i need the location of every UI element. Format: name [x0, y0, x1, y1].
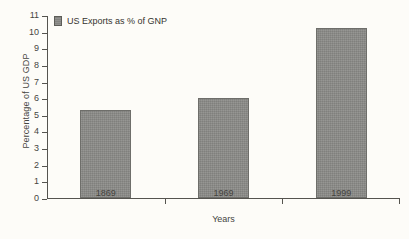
y-axis-tick: 6: [42, 99, 47, 100]
y-axis-tick-label: 8: [34, 60, 39, 70]
x-axis-tick-label: 1999: [331, 188, 351, 198]
y-axis-tick-label: 2: [34, 160, 39, 170]
y-axis-tick-label: 7: [34, 77, 39, 87]
x-axis-title: Years: [47, 214, 400, 224]
x-axis-tick: [165, 199, 166, 204]
y-axis-title: Percentage of US GDP: [21, 11, 31, 191]
legend-swatch-icon: [54, 16, 62, 26]
y-axis-tick: 9: [42, 49, 47, 50]
y-axis-tick: 3: [42, 149, 47, 150]
plot-area: 01234567891011: [47, 16, 400, 199]
bar: [316, 28, 367, 198]
y-axis-tick: 1: [42, 182, 47, 183]
y-axis-tick: 8: [42, 66, 47, 67]
bar: [80, 110, 131, 198]
y-axis-tick-label: 3: [34, 143, 39, 153]
y-axis-tick: 7: [42, 83, 47, 84]
y-axis-tick: 2: [42, 166, 47, 167]
y-axis-line: [47, 16, 48, 199]
x-axis-tick-label: 1969: [213, 188, 233, 198]
bar-chart: Percentage of US GDP 01234567891011 1869…: [0, 0, 409, 239]
y-axis-tick-label: 5: [34, 110, 39, 120]
bar: [198, 98, 249, 198]
x-axis-line: [47, 198, 400, 199]
x-axis-tick: [399, 199, 400, 204]
y-axis-tick-label: 4: [34, 126, 39, 136]
y-axis-tick-label: 10: [29, 27, 39, 37]
y-axis-tick-label: 11: [30, 10, 39, 20]
y-axis-tick: 0: [42, 199, 47, 200]
y-axis-tick: 10: [42, 33, 47, 34]
y-axis-tick-label: 0: [34, 193, 39, 203]
legend-label: US Exports as % of GNP: [67, 16, 167, 26]
chart-legend: US Exports as % of GNP: [54, 16, 167, 26]
y-axis-tick: 5: [42, 116, 47, 117]
x-axis-tick-label: 1869: [96, 188, 116, 198]
y-axis-tick-label: 6: [34, 93, 39, 103]
x-axis-tick: [282, 199, 283, 204]
y-axis-tick: 11: [42, 16, 47, 17]
y-axis-tick: 4: [42, 132, 47, 133]
y-axis-tick-label: 1: [34, 176, 39, 186]
y-axis-tick-label: 9: [34, 43, 39, 53]
